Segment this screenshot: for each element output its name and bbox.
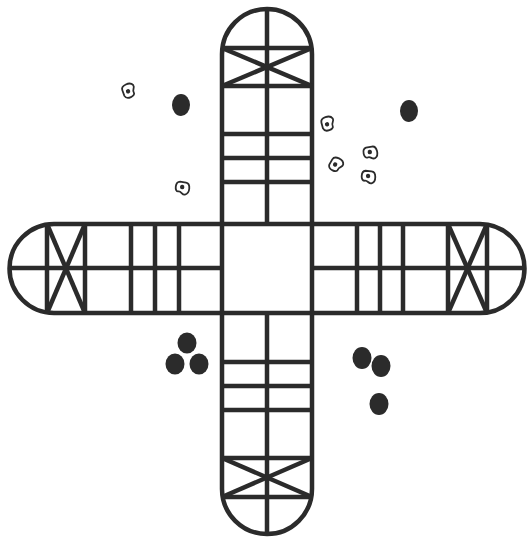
cowrie-shell-icon[interactable] [121,82,137,99]
bottom-arm [222,313,312,534]
game-piece-top-left[interactable] [172,94,190,116]
game-piece-bottom-left[interactable] [190,354,209,375]
cowrie-shell-icon[interactable] [363,146,379,160]
cowrie-shells [121,82,378,195]
game-piece-bottom-left[interactable] [166,354,185,375]
game-piece-bottom-right[interactable] [370,393,389,415]
top-arm [222,9,312,224]
left-arm [10,224,223,313]
cowrie-shell-icon[interactable] [361,170,376,183]
game-board [0,0,529,542]
cowrie-shell-icon[interactable] [328,156,345,174]
cowrie-shell-icon[interactable] [175,181,191,195]
game-piece-bottom-right[interactable] [372,355,391,377]
game-piece-bottom-right[interactable] [353,347,372,369]
game-piece-top-right[interactable] [400,100,418,122]
right-arm [312,224,525,313]
cowrie-shell-icon[interactable] [320,115,335,131]
center-home [222,224,312,313]
game-piece-bottom-left[interactable] [178,333,197,354]
